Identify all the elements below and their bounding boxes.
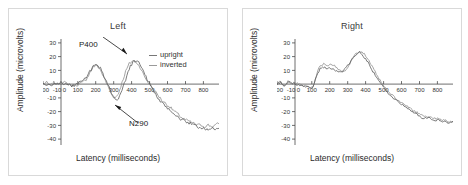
panel-right-svg: 30 20 10 -10 -20 -30 -40 bbox=[277, 37, 453, 147]
panel-right-y-axis-label: Amplitude (microvolts) bbox=[249, 22, 259, 118]
ytick-neg30: -30 bbox=[281, 123, 290, 129]
ytick-neg40: -40 bbox=[47, 136, 56, 142]
xtick-300: 300 bbox=[343, 87, 354, 93]
panel-left-x-axis-label: Latency (milliseconds) bbox=[9, 153, 227, 163]
panel-left-plot-area: 30 20 10 -10 -20 -30 -40 bbox=[43, 37, 219, 147]
ytick-10: 10 bbox=[49, 68, 56, 74]
panel-right-plot-area: 30 20 10 -10 -20 -30 -40 bbox=[277, 37, 453, 147]
ytick-20: 20 bbox=[49, 54, 56, 60]
xtick-800: 800 bbox=[432, 87, 443, 93]
panel-right-x-ticks: -100 -10 0 100 200 300 400 500 600 700 8… bbox=[277, 81, 443, 93]
ytick-neg20: -20 bbox=[281, 109, 290, 115]
panel-left-title: Left bbox=[9, 21, 227, 31]
ytick-neg30: -30 bbox=[47, 123, 56, 129]
xtick-neg10: -10 bbox=[287, 87, 296, 93]
p400-arrow-icon bbox=[103, 37, 127, 54]
xtick-200: 200 bbox=[325, 87, 336, 93]
xtick-neg10: -10 bbox=[53, 87, 62, 93]
legend-label-upright: upright bbox=[160, 50, 183, 60]
xtick-neg100: -100 bbox=[43, 87, 50, 93]
legend-item-inverted: inverted bbox=[149, 60, 187, 70]
legend-label-inverted: inverted bbox=[160, 60, 187, 70]
legend-item-upright: upright bbox=[149, 50, 187, 60]
legend-line-upright-icon bbox=[149, 55, 157, 56]
panel-right: Right Amplitude (microvolts) Latency (mi… bbox=[242, 8, 462, 176]
ytick-neg20: -20 bbox=[47, 109, 56, 115]
panel-left-svg: 30 20 10 -10 -20 -30 -40 bbox=[43, 37, 219, 147]
xtick-200: 200 bbox=[91, 87, 102, 93]
ytick-10: 10 bbox=[283, 68, 290, 74]
ytick-20: 20 bbox=[283, 54, 290, 60]
panel-left: Left Amplitude (microvolts) Latency (mil… bbox=[8, 8, 228, 176]
xtick-600: 600 bbox=[162, 87, 173, 93]
xtick-700: 700 bbox=[180, 87, 191, 93]
legend-line-inverted-icon bbox=[149, 65, 157, 66]
panel-left-x-ticks: -100 -10 0 100 200 300 400 500 600 700 8… bbox=[43, 81, 209, 93]
xtick-100: 100 bbox=[73, 87, 84, 93]
annotation-p400: P400 bbox=[79, 40, 98, 49]
ytick-neg10: -10 bbox=[47, 95, 56, 101]
panel-right-title: Right bbox=[243, 21, 461, 31]
annotation-n290: N290 bbox=[129, 119, 148, 128]
panel-left-y-axis-label: Amplitude (microvolts) bbox=[15, 22, 25, 118]
erp-figure: Left Amplitude (microvolts) Latency (mil… bbox=[0, 0, 468, 185]
panel-left-legend: upright inverted bbox=[149, 50, 187, 70]
xtick-700: 700 bbox=[414, 87, 425, 93]
xtick-600: 600 bbox=[396, 87, 407, 93]
panel-right-x-axis-label: Latency (milliseconds) bbox=[243, 153, 461, 163]
xtick-0: 0 bbox=[297, 87, 301, 93]
ytick-30: 30 bbox=[283, 40, 290, 46]
xtick-400: 400 bbox=[127, 87, 138, 93]
xtick-800: 800 bbox=[198, 87, 209, 93]
ytick-neg40: -40 bbox=[281, 136, 290, 142]
ytick-neg10: -10 bbox=[281, 95, 290, 101]
xtick-0: 0 bbox=[63, 87, 67, 93]
xtick-400: 400 bbox=[361, 87, 372, 93]
xtick-neg100: -100 bbox=[277, 87, 284, 93]
ytick-30: 30 bbox=[49, 40, 56, 46]
